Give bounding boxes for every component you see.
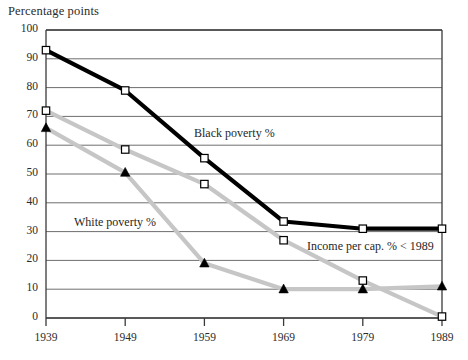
series-annotation-label: Black poverty % <box>194 126 275 141</box>
y-axis-tick-label: 90 <box>12 51 38 63</box>
y-axis-tick-label: 100 <box>12 22 38 34</box>
marker-square <box>42 107 49 114</box>
y-axis-tick-label: 60 <box>12 137 38 149</box>
y-axis-tick-label: 20 <box>12 252 38 264</box>
marker-square <box>201 180 208 187</box>
x-axis-tick-label: 1969 <box>256 331 312 343</box>
marker-square <box>280 218 287 225</box>
y-axis-tick-label: 10 <box>12 281 38 293</box>
series-line <box>46 128 442 289</box>
plot-area <box>0 0 468 360</box>
y-axis-tick-label: 50 <box>12 166 38 178</box>
marker-square <box>122 87 129 94</box>
marker-square <box>122 146 129 153</box>
marker-square <box>280 237 287 244</box>
chart-container: Percentage points 0102030405060708090100… <box>0 0 468 360</box>
marker-square <box>359 277 366 284</box>
y-axis-tick-label: 30 <box>12 224 38 236</box>
series-annotation-label: White poverty % <box>74 215 156 230</box>
marker-square <box>42 46 49 53</box>
y-axis-tick-label: 40 <box>12 195 38 207</box>
marker-square <box>438 313 445 320</box>
x-axis-tick-label: 1959 <box>176 331 232 343</box>
marker-square <box>438 225 445 232</box>
x-axis-tick-label: 1939 <box>18 331 74 343</box>
y-axis-tick-label: 0 <box>12 310 38 322</box>
x-axis-tick-label: 1949 <box>97 331 153 343</box>
series-annotation-label: Income per cap. % < 1989 <box>307 239 434 254</box>
marker-square <box>359 225 366 232</box>
data-series <box>41 123 446 293</box>
x-axis-tick-label: 1979 <box>335 331 391 343</box>
marker-triangle <box>41 123 50 132</box>
x-axis-tick-label: 1989 <box>414 331 468 343</box>
y-axis-tick-label: 80 <box>12 80 38 92</box>
y-axis-tick-label: 70 <box>12 108 38 120</box>
marker-square <box>201 154 208 161</box>
series-line <box>46 111 442 317</box>
